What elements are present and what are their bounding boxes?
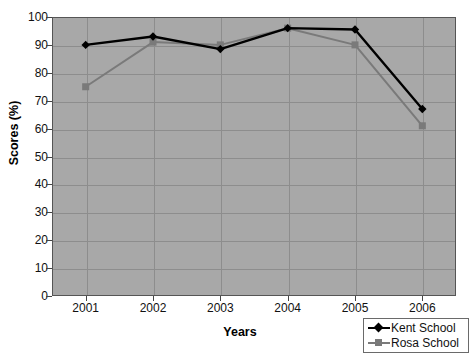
gridline-horizontal <box>53 130 455 131</box>
square-icon <box>375 339 382 346</box>
y-tick-mark <box>46 129 52 130</box>
legend-symbol <box>367 321 391 335</box>
gridline-vertical <box>423 18 424 295</box>
y-tick-label: 90 <box>22 39 48 51</box>
x-tick-mark <box>220 296 221 301</box>
gridline-vertical <box>221 18 222 295</box>
x-tick-label: 2001 <box>63 301 109 315</box>
legend-item[interactable]: Kent School <box>367 320 465 335</box>
x-tick-label: 2002 <box>130 301 176 315</box>
gridline-horizontal <box>53 269 455 270</box>
y-tick-label: 20 <box>22 234 48 246</box>
y-tick-mark <box>46 240 52 241</box>
y-tick-label: 40 <box>22 178 48 190</box>
y-tick-mark <box>46 45 52 46</box>
gridline-vertical <box>289 18 290 295</box>
y-tick-mark <box>46 184 52 185</box>
x-tick-mark <box>153 296 154 301</box>
y-axis-title: Scores (%) <box>7 83 21 183</box>
x-tick-label: 2003 <box>197 301 243 315</box>
y-tick-mark <box>46 268 52 269</box>
x-tick-mark <box>355 296 356 301</box>
gridline-horizontal <box>53 213 455 214</box>
y-tick-label: 0 <box>22 290 48 302</box>
gridline-horizontal <box>53 241 455 242</box>
y-tick-label: 30 <box>22 206 48 218</box>
diamond-icon <box>374 322 384 332</box>
y-tick-label: 50 <box>22 151 48 163</box>
x-tick-label: 2004 <box>265 301 311 315</box>
x-tick-mark <box>86 296 87 301</box>
gridline-horizontal <box>53 74 455 75</box>
y-tick-label: 70 <box>22 95 48 107</box>
gridline-horizontal <box>53 185 455 186</box>
legend-item[interactable]: Rosa School <box>367 335 465 350</box>
x-tick-mark <box>422 296 423 301</box>
y-tick-label: 100 <box>22 11 48 23</box>
legend-symbol <box>367 336 391 350</box>
x-tick-label: 2005 <box>332 301 378 315</box>
x-tick-mark <box>288 296 289 301</box>
y-tick-label: 80 <box>22 67 48 79</box>
y-tick-mark <box>46 17 52 18</box>
gridline-vertical <box>154 18 155 295</box>
y-tick-mark <box>46 101 52 102</box>
legend-label: Rosa School <box>391 336 459 350</box>
gridline-vertical <box>356 18 357 295</box>
x-tick-label: 2006 <box>399 301 445 315</box>
legend-label: Kent School <box>391 321 456 335</box>
chart-legend: Kent SchoolRosa School <box>363 318 469 353</box>
y-tick-mark <box>46 73 52 74</box>
gridline-vertical <box>87 18 88 295</box>
y-tick-label: 60 <box>22 123 48 135</box>
y-tick-mark <box>46 212 52 213</box>
y-tick-mark <box>46 157 52 158</box>
x-axis-title: Years <box>195 325 285 339</box>
y-tick-mark <box>46 296 52 297</box>
plot-area <box>52 17 456 296</box>
gridline-horizontal <box>53 46 455 47</box>
gridline-horizontal <box>53 102 455 103</box>
gridline-horizontal <box>53 158 455 159</box>
y-tick-label: 10 <box>22 262 48 274</box>
